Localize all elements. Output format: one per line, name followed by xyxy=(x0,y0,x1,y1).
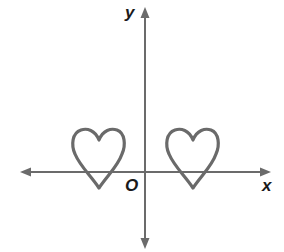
coordinate-plane-diagram: y O x xyxy=(0,0,284,252)
y-axis-label: y xyxy=(125,4,134,21)
y-axis-up-arrow-icon xyxy=(141,7,150,18)
origin-label: O xyxy=(125,177,138,194)
heart-right-icon xyxy=(167,129,219,188)
y-axis-down-arrow-icon xyxy=(141,238,150,249)
diagram-graphics xyxy=(0,0,284,252)
y-axis xyxy=(141,7,150,249)
x-axis-label: x xyxy=(262,177,271,194)
heart-left-icon xyxy=(73,129,125,188)
x-axis-left-arrow-icon xyxy=(20,168,31,177)
